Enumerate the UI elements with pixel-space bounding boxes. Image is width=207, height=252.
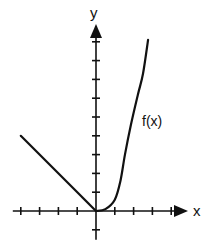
axes: x y [13, 4, 201, 240]
x-axis-label: x [193, 202, 201, 219]
function-line-left [21, 136, 96, 211]
x-axis-arrow-icon [174, 205, 188, 217]
series [21, 40, 148, 211]
y-axis-arrow-icon [90, 24, 102, 38]
function-label: f(x) [142, 113, 162, 129]
function-graph: x y f(x) [0, 0, 207, 252]
function-curve-right [96, 40, 148, 211]
y-axis-label: y [90, 4, 98, 21]
